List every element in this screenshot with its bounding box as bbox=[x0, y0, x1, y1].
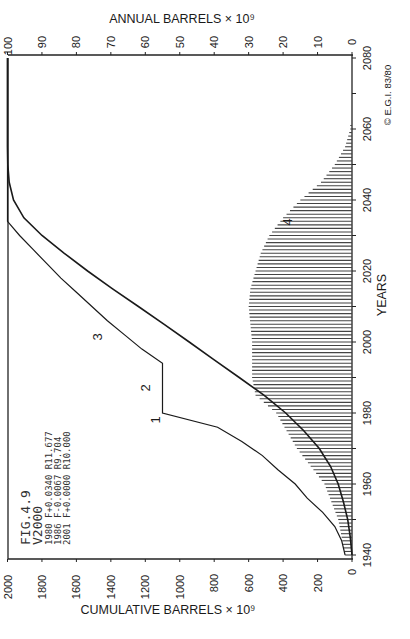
cumulative-tick-label: 1600 bbox=[70, 575, 82, 599]
curve-label-4: 4 bbox=[280, 218, 295, 225]
year-tick-label: 2040 bbox=[361, 188, 373, 212]
annual-tick-label: 10 bbox=[312, 36, 324, 48]
copyright-note: © E.G.I. 83/80 bbox=[382, 65, 393, 125]
figure-annotations: FIG.4.9V20001980 F+0.0340 R11.6771986 F-… bbox=[18, 218, 295, 545]
cumulative-tick-label: 1800 bbox=[36, 575, 48, 599]
curve-label-3: 3 bbox=[90, 333, 105, 340]
year-tick-label: 1940 bbox=[361, 543, 373, 567]
annual-tick-label: 40 bbox=[208, 36, 220, 48]
year-tick-label: 2060 bbox=[361, 117, 373, 141]
annual-tick-label: 90 bbox=[36, 36, 48, 48]
figure-parameter-line: 2001 F+0.0000 R10.000 bbox=[62, 431, 72, 545]
figure-subtitle: V2000 bbox=[30, 506, 45, 545]
year-tick-label: 1960 bbox=[361, 472, 373, 496]
year-tick-label: 1980 bbox=[361, 401, 373, 425]
years-axis-title: YEARS bbox=[375, 274, 389, 316]
annual-tick-label: 30 bbox=[243, 36, 255, 48]
curve-label-2: 2 bbox=[138, 384, 153, 391]
year-tick-label: 2000 bbox=[361, 330, 373, 354]
cumulative-tick-label: 1200 bbox=[139, 575, 151, 599]
year-tick-label: 2080 bbox=[361, 46, 373, 70]
annual-tick-label: 100 bbox=[2, 37, 14, 55]
cumulative-tick-label: 2000 bbox=[2, 575, 14, 599]
cumulative-tick-label: 600 bbox=[243, 574, 255, 592]
cumulative-tick-label: 200 bbox=[312, 574, 324, 592]
annual-tick-label: 20 bbox=[277, 36, 289, 48]
rotated-oil-production-chart: 0102030405060708090100020040060080010001… bbox=[0, 0, 410, 639]
annual-tick-label: 50 bbox=[174, 36, 186, 48]
cumulative-axis-title: CUMULATIVE BARRELS × 10⁹ bbox=[81, 603, 256, 617]
annual-tick-label: 70 bbox=[105, 36, 117, 48]
cumulative-tick-label: 800 bbox=[208, 574, 220, 592]
cumulative-tick-label: 0 bbox=[346, 569, 358, 575]
annual-axis-title: ANNUAL BARRELS × 10⁹ bbox=[109, 12, 255, 26]
year-tick-label: 2020 bbox=[361, 259, 373, 283]
cumulative-tick-label: 400 bbox=[277, 574, 289, 592]
cumulative-tick-label: 1000 bbox=[174, 575, 186, 599]
cumulative-tick-label: 1400 bbox=[105, 575, 117, 599]
curve-label-1: 1 bbox=[148, 416, 163, 423]
annual-tick-label: 0 bbox=[346, 39, 358, 45]
annual-tick-label: 60 bbox=[139, 36, 151, 48]
annual-tick-label: 80 bbox=[70, 36, 82, 48]
